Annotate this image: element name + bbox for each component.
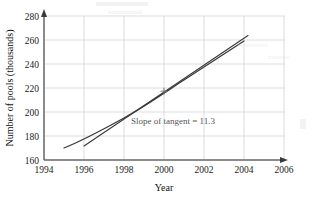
y-tick-180: 180 [25,132,40,142]
chart-figure: Slope of tangent = 11.3 280 260 240 220 … [0,0,313,197]
x-tick-2000: 2000 [155,165,174,175]
x-tick-2002: 2002 [195,165,214,175]
y-tick-200: 200 [25,108,40,118]
x-tick-labels: 1994 1996 1998 2000 2002 2004 2006 [35,165,294,175]
y-tick-160: 160 [25,156,40,166]
y-tick-260: 260 [25,36,40,46]
x-tick-1996: 1996 [75,165,94,175]
y-tick-240: 240 [25,60,40,70]
y-tick-220: 220 [25,84,40,94]
x-axis-title: Year [155,182,174,193]
y-tick-280: 280 [25,12,40,22]
y-tick-labels: 280 260 240 220 200 180 160 [25,12,40,166]
y-axis-title: Number of pools (thousands) [4,30,16,147]
x-tick-1998: 1998 [115,165,134,175]
slope-annotation: Slope of tangent = 11.3 [131,116,215,126]
pools-line-chart: Slope of tangent = 11.3 280 260 240 220 … [0,0,313,197]
axes [41,9,288,163]
x-tick-1994: 1994 [35,165,54,175]
y-axis-arrow-icon [41,9,47,17]
x-tick-2006: 2006 [275,165,294,175]
x-tick-2004: 2004 [235,165,254,175]
